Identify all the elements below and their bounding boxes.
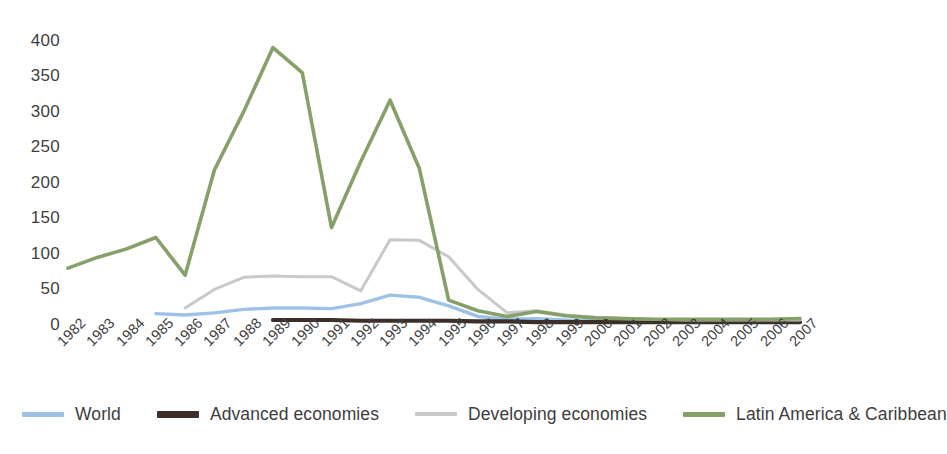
y-tick-label: 100 [2,244,60,264]
legend-item-label: World [75,404,121,425]
y-tick-label: 150 [2,208,60,228]
legend-swatch-developing-economies [415,412,457,416]
y-tick-label: 350 [2,66,60,86]
chart-legend: WorldAdvanced economiesDeveloping econom… [0,398,837,430]
legend-item-label: Advanced economies [210,404,379,425]
legend-item[interactable]: Latin America & Caribbean [683,404,947,425]
y-tick-label: 250 [2,137,60,157]
legend-item[interactable]: Advanced economies [157,404,379,425]
plot-area [0,0,837,340]
legend-swatch-latin-america-caribbean [683,412,725,417]
chart-plot-svg [0,0,837,340]
y-tick-label: 400 [2,31,60,51]
y-tick-label: 300 [2,102,60,122]
legend-swatch-advanced-economies [157,411,199,418]
legend-item[interactable]: World [22,404,121,425]
x-axis: 1982198319841985198619871988198919901991… [0,332,837,394]
legend-item[interactable]: Developing economies [415,404,647,425]
y-tick-label: 200 [2,173,60,193]
y-axis: 050100150200250300350400 [0,0,60,340]
legend-swatch-world [22,412,64,417]
series-line-latin-america-caribbean [68,48,800,320]
legend-item-label: Developing economies [468,404,647,425]
y-tick-label: 50 [2,279,60,299]
legend-item-label: Latin America & Caribbean [736,404,947,425]
